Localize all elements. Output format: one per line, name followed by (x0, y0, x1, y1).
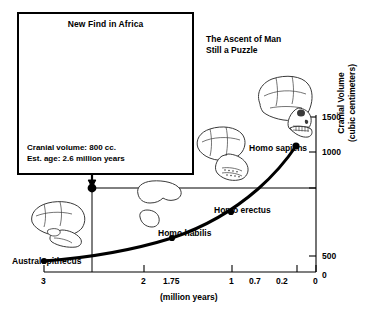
y-axis-title-line-2: (cubic centimeters) (347, 58, 358, 148)
headline-line-2: Still a Puzzle (206, 45, 281, 56)
homo-habilis-cranium-fragment-icon (138, 181, 182, 203)
new-find-guides (92, 175, 316, 272)
label-homo-erectus: Homo erectus (214, 205, 271, 215)
y-axis (309, 115, 316, 272)
homo-erectus-skull-icon (197, 127, 248, 180)
x-tick-3: 3 (41, 276, 46, 286)
figure-headline: The Ascent of Man Still a Puzzle (206, 34, 281, 56)
australopithecus-skull-icon (32, 202, 85, 248)
x-tick-1-75: 1.75 (163, 276, 180, 286)
label-homo-habilis: Homo habilis (158, 228, 211, 238)
inset-title: New Find in Africa (19, 19, 192, 29)
y-tick-0: 0 (322, 270, 327, 280)
y-axis-title-line-1: Cranial Volume (336, 58, 347, 148)
homo-sapiens-skull-icon (259, 76, 313, 137)
x-tick-1: 1 (229, 276, 234, 286)
inset-caption-age: Est. age: 2.6 million years (27, 153, 177, 164)
inset-caption-volume: Cranial volume: 800 cc. (27, 142, 177, 153)
inset-caption: Cranial volume: 800 cc. Est. age: 2.6 mi… (27, 142, 177, 164)
x-tick-0-2: 0.2 (276, 276, 288, 286)
label-australopithecus: Australopithecus (12, 256, 81, 266)
y-tick-1000: 1000 (322, 147, 341, 157)
homo-habilis-bone-fragment-icon (140, 210, 159, 227)
label-homo-sapiens: Homo sapiens (249, 143, 307, 153)
new-find-datapoint (88, 184, 97, 193)
y-tick-500: 500 (322, 251, 336, 261)
x-tick-2: 2 (141, 276, 146, 286)
x-axis-title: (million years) (160, 292, 218, 302)
figure-canvas: New Find in Africa Cranial volume: 800 c… (0, 0, 382, 313)
y-axis-title: Cranial Volume (cubic centimeters) (336, 58, 358, 148)
x-tick-0: 0 (313, 276, 318, 286)
x-tick-0-7: 0.7 (249, 276, 261, 286)
headline-line-1: The Ascent of Man (206, 34, 281, 45)
x-axis (44, 265, 316, 272)
new-find-inset-panel: New Find in Africa Cranial volume: 800 c… (17, 12, 194, 175)
